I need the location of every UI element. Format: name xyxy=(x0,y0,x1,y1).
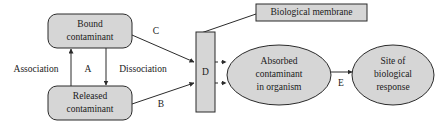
edge-label-e: E xyxy=(338,78,344,88)
edge-label-b: B xyxy=(158,99,164,109)
edge-label-association: Association xyxy=(14,64,59,74)
node-site-of-response-line3: response xyxy=(376,82,409,92)
node-absorbed-contaminant-line2: contaminant xyxy=(256,69,303,79)
diagram-canvas: Bound contaminant Released contaminant D… xyxy=(0,0,440,128)
edge-c-arrow xyxy=(132,35,194,62)
edge-label-a: A xyxy=(85,64,92,74)
node-site-of-response-line1: Site of xyxy=(380,56,406,66)
node-released-contaminant-line1: Released xyxy=(73,91,108,101)
node-released-contaminant-line2: contaminant xyxy=(67,104,114,114)
node-bound-contaminant-line1: Bound xyxy=(77,19,103,29)
node-absorbed-contaminant-line3: in organism xyxy=(257,82,303,92)
edge-label-c: C xyxy=(153,26,159,36)
node-site-of-response-line2: biological xyxy=(374,69,412,79)
node-biological-membrane-label-text: Biological membrane xyxy=(270,7,352,17)
node-membrane-bar-label: D xyxy=(202,67,209,77)
edge-label-dissociation: Dissociation xyxy=(119,64,167,74)
membrane-label-leader-line xyxy=(201,14,256,33)
node-bound-contaminant-line2: contaminant xyxy=(67,32,114,42)
diagram-svg: Bound contaminant Released contaminant D… xyxy=(0,0,440,128)
node-absorbed-contaminant-line1: Absorbed xyxy=(261,56,298,66)
